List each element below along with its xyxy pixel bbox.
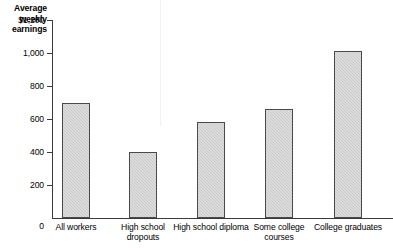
y-tick-label-1200: $1,200 bbox=[0, 16, 44, 25]
x-tick-label-2: High school dropouts bbox=[104, 222, 182, 243]
y-axis-title-line-3: earnings bbox=[0, 24, 47, 35]
y-tick-label-800: 800 bbox=[0, 82, 44, 91]
y-axis-title-line-1: Average bbox=[0, 3, 47, 14]
bar-4 bbox=[265, 109, 293, 218]
y-tick-label-600: 600 bbox=[0, 115, 44, 124]
x-tick-label-5: College graduates bbox=[309, 222, 387, 232]
y-tick-label-200: 200 bbox=[0, 181, 44, 190]
bar-2 bbox=[129, 152, 157, 218]
x-tick-label-3: High school diploma bbox=[172, 222, 250, 232]
bar-3 bbox=[197, 122, 225, 218]
y-tick-label-400: 400 bbox=[0, 148, 44, 157]
plot-area bbox=[52, 20, 393, 218]
y-tick-label-1000: 1,000 bbox=[0, 49, 44, 58]
bar-5 bbox=[334, 51, 362, 218]
x-axis-line bbox=[52, 218, 393, 219]
x-tick-label-4: Some college courses bbox=[240, 222, 318, 243]
bar-1 bbox=[62, 103, 90, 219]
bar-chart: Average weekly earnings 2004006008001,00… bbox=[0, 0, 393, 248]
